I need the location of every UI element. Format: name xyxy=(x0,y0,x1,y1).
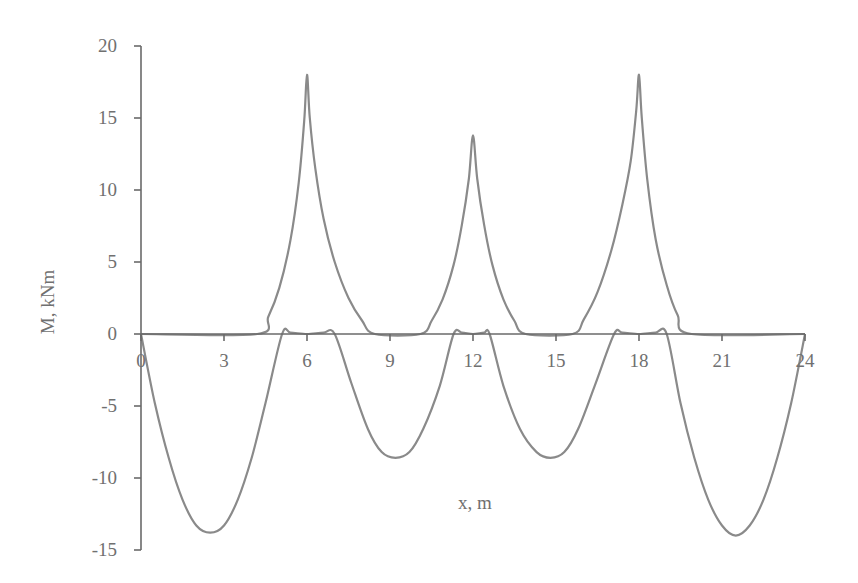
y-tick-label: -15 xyxy=(92,539,117,560)
axes: 20151050-5-10-15 03691215182124 xyxy=(92,35,815,560)
y-tick-label: 10 xyxy=(98,179,117,200)
x-tick-label: 21 xyxy=(713,350,732,371)
y-tick-label: -10 xyxy=(92,467,117,488)
x-tick-label: 15 xyxy=(547,350,566,371)
y-tick-label: 20 xyxy=(98,35,117,56)
moment-envelope-chart: 20151050-5-10-15 03691215182124 x, m M, … xyxy=(0,0,858,583)
x-tick-label: 3 xyxy=(219,350,229,371)
x-tick-label: 24 xyxy=(796,350,816,371)
y-tick-label: 0 xyxy=(108,323,118,344)
positive-moment-curve xyxy=(141,75,805,336)
x-axis-title: x, m xyxy=(458,492,492,513)
series-layer xyxy=(141,75,805,536)
y-ticks: 20151050-5-10-15 xyxy=(92,35,141,560)
x-tick-label: 6 xyxy=(302,350,312,371)
x-tick-label: 12 xyxy=(464,350,483,371)
y-tick-label: 15 xyxy=(98,107,117,128)
y-tick-label: 5 xyxy=(108,251,118,272)
x-tick-label: 18 xyxy=(630,350,649,371)
x-tick-label: 9 xyxy=(385,350,395,371)
x-tick-label: 0 xyxy=(136,350,146,371)
x-ticks: 03691215182124 xyxy=(136,334,815,371)
y-tick-label: -5 xyxy=(101,395,117,416)
y-axis-title: M, kNm xyxy=(37,270,58,335)
